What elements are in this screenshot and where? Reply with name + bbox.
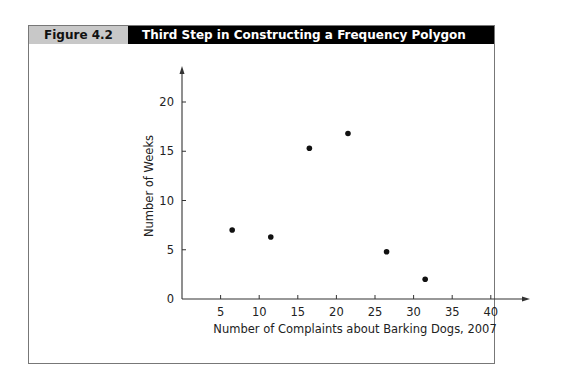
x-tick-label: 15 xyxy=(290,305,305,319)
data-point xyxy=(422,277,428,283)
data-point xyxy=(229,227,235,233)
x-tick-label: 35 xyxy=(445,305,460,319)
x-axis-arrow-icon xyxy=(522,297,530,302)
y-tick-label: 10 xyxy=(159,194,174,208)
x-tick-label: 10 xyxy=(252,305,267,319)
scatter-chart: 51015202530354005101520 Number of Compla… xyxy=(0,0,564,379)
x-tick-label: 25 xyxy=(368,305,383,319)
data-point xyxy=(345,131,351,137)
y-axis-label: Number of Weeks xyxy=(142,135,156,237)
y-tick-label: 5 xyxy=(167,243,174,257)
x-tick-label: 5 xyxy=(217,305,224,319)
data-point xyxy=(384,249,390,255)
y-axis-arrow-icon xyxy=(180,66,185,74)
axes: 51015202530354005101520 xyxy=(159,66,530,319)
y-tick-label: 20 xyxy=(159,95,174,109)
x-tick-label: 30 xyxy=(406,305,421,319)
x-axis-label: Number of Complaints about Barking Dogs,… xyxy=(213,322,496,336)
data-point xyxy=(268,234,274,240)
data-points xyxy=(229,131,428,282)
y-tick-label: 0 xyxy=(167,292,174,306)
x-tick-label: 40 xyxy=(483,305,498,319)
y-tick-label: 15 xyxy=(159,144,174,158)
data-point xyxy=(307,145,313,151)
x-tick-label: 20 xyxy=(329,305,344,319)
